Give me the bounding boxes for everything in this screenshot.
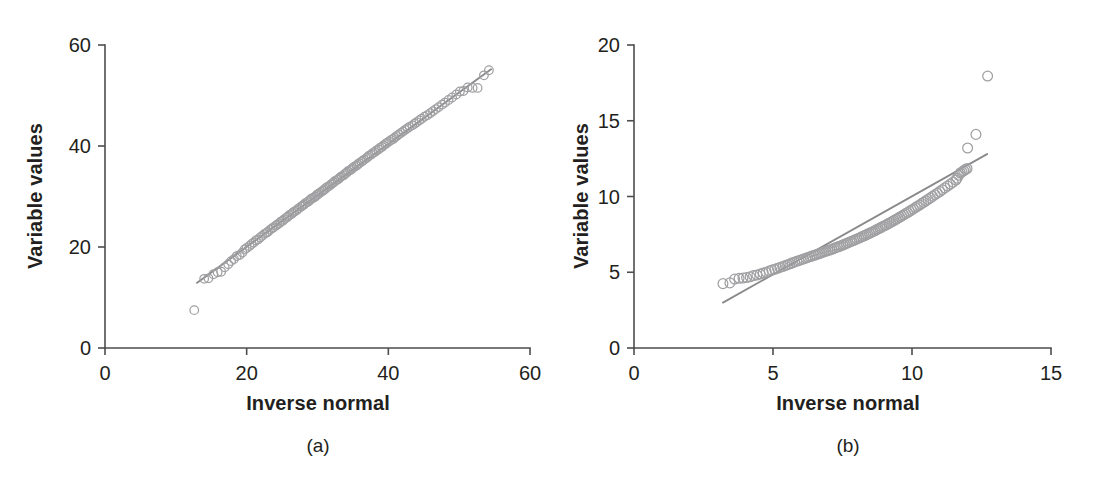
panel-b-x-tick-label: 15 (1040, 362, 1062, 384)
panel-b-x-tick-label: 5 (767, 362, 778, 384)
panel-a-y-tick-label: 60 (69, 34, 91, 56)
qq-plot-figure: Variable values 02040600204060 Inverse n… (0, 0, 1096, 479)
panel-b-y-tick-label: 5 (609, 261, 620, 283)
panel-b: Variable values 05101505101520 Inverse n… (548, 0, 1096, 479)
panel-a-y-tick-label: 0 (80, 337, 91, 359)
panel-b-y-tick-label: 20 (598, 34, 620, 56)
panel-b-y-axis-label: Variable values (570, 123, 592, 269)
panel-b-x-tick-label: 10 (901, 362, 923, 384)
panel-a-y-tick-label: 20 (69, 236, 91, 258)
panel-a: Variable values 02040600204060 Inverse n… (0, 0, 548, 479)
data-point (473, 84, 482, 93)
panel-b-y-tick-label: 15 (598, 110, 620, 132)
panel-a-y-axis-label: Variable values (24, 123, 46, 269)
panel-a-x-axis-label: Inverse normal (246, 392, 390, 414)
panel-b-plot: Variable values 05101505101520 Inverse n… (548, 0, 1096, 479)
panel-a-y-tick-label: 40 (69, 135, 91, 157)
data-point (963, 143, 973, 153)
data-point (971, 129, 981, 139)
data-point (468, 84, 477, 93)
panel-a-x-tick-label: 20 (236, 362, 258, 384)
panel-a-caption: (a) (306, 435, 329, 456)
panel-b-x-axis-label: Inverse normal (776, 392, 920, 414)
data-point (190, 306, 199, 315)
panel-a-plot: Variable values 02040600204060 Inverse n… (0, 0, 548, 479)
panel-a-x-tick-label: 0 (99, 362, 110, 384)
panel-b-x-tick-label: 0 (628, 362, 639, 384)
panel-b-reference-line (723, 154, 987, 302)
panel-a-x-tick-label: 60 (519, 362, 541, 384)
panel-a-x-tick-label: 40 (377, 362, 399, 384)
panel-b-y-tick-label: 0 (609, 337, 620, 359)
panel-b-caption: (b) (836, 435, 859, 456)
panel-b-y-tick-label: 10 (598, 186, 620, 208)
data-point (983, 71, 993, 81)
